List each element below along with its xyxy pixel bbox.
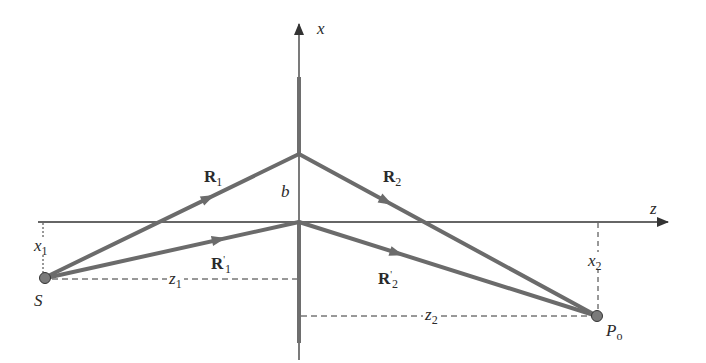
z2-label: z2 bbox=[423, 306, 440, 323]
x2-label: x2 bbox=[588, 252, 602, 269]
diagram-canvas bbox=[0, 0, 706, 363]
ray-r1 bbox=[46, 154, 299, 277]
r1-label-sub: 1 bbox=[216, 175, 222, 189]
x-axis-label: x bbox=[317, 20, 325, 37]
z-axis-label: z bbox=[650, 200, 657, 217]
z2-label-sub: 2 bbox=[432, 313, 438, 327]
r1-label: R1 bbox=[204, 168, 222, 185]
observer-label-sub: o bbox=[616, 329, 622, 343]
r1-arrow-icon bbox=[200, 190, 217, 205]
x2-label-text: x bbox=[588, 251, 596, 270]
observer-label: Po bbox=[606, 322, 622, 339]
r2-label: R2 bbox=[383, 168, 401, 185]
b-label: b bbox=[281, 183, 290, 200]
x1-label-sub: 1 bbox=[42, 244, 48, 258]
r2-label-text: R bbox=[383, 167, 395, 186]
z1-label-sub: 1 bbox=[176, 277, 182, 291]
r2-prime-label-text: R bbox=[378, 269, 390, 288]
z1-label: z1 bbox=[167, 270, 184, 287]
z1-label-text: z bbox=[169, 269, 176, 288]
r1-prime-label-text: R bbox=[211, 254, 223, 273]
diffraction-diagram: x z R1 R2 R'1 R'2 b x1 x2 z1 z2 S Po bbox=[0, 0, 706, 363]
r2-prime-label: R'2 bbox=[378, 270, 398, 287]
source-label: S bbox=[34, 292, 43, 309]
ray-arrowheads bbox=[200, 190, 405, 260]
r1-prime-label: R'1 bbox=[211, 255, 231, 272]
x-axis-label-text: x bbox=[317, 19, 325, 38]
r1-label-text: R bbox=[204, 167, 216, 186]
x1-label-text: x bbox=[34, 236, 42, 255]
source-point bbox=[40, 273, 51, 284]
z-axis-label-text: z bbox=[650, 199, 657, 218]
r2-prime-label-sub: 2 bbox=[392, 277, 398, 291]
b-label-text: b bbox=[281, 182, 290, 201]
rays bbox=[46, 154, 597, 316]
z2-label-text: z bbox=[425, 305, 432, 324]
r1-prime-label-sub: 1 bbox=[225, 262, 231, 276]
r2-label-sub: 2 bbox=[395, 175, 401, 189]
x2-label-sub: 2 bbox=[596, 259, 602, 273]
observer-point bbox=[592, 311, 603, 322]
source-label-text: S bbox=[34, 291, 43, 310]
observer-label-text: P bbox=[606, 321, 616, 340]
x1-label: x1 bbox=[34, 237, 48, 254]
